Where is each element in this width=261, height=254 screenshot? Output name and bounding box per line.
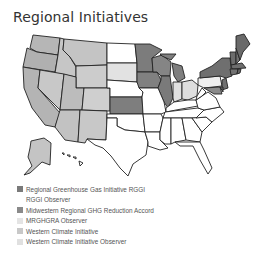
state-arkansas[interactable] [143, 114, 163, 132]
state-hawaii[interactable] [62, 153, 83, 166]
map-title: Regional Initiatives [13, 9, 148, 25]
state-kansas[interactable] [110, 97, 143, 114]
legend-swatch [17, 186, 23, 192]
state-new-mexico[interactable] [78, 110, 107, 143]
map-legend: Regional Greenhouse Gas Initiative RGGI … [17, 184, 154, 247]
legend-item-mrghgra-observer: MRGHGRA Observer [17, 216, 154, 227]
legend-label: Western Climate Initiative [26, 228, 98, 235]
state-north-dakota[interactable] [107, 43, 137, 63]
legend-item-wci: Western Climate Initiative [17, 226, 154, 237]
state-rhode-island[interactable] [237, 69, 241, 74]
legend-swatch [17, 228, 23, 234]
legend-label: Regional Greenhouse Gas Initiative RGGI [26, 186, 145, 193]
state-new-york[interactable] [200, 58, 232, 78]
state-south-dakota[interactable] [107, 63, 137, 82]
legend-label: Midwestern Regional GHG Reduction Accord [26, 207, 154, 214]
legend-swatch [17, 207, 23, 213]
state-alaska[interactable] [24, 138, 51, 175]
state-wyoming[interactable] [76, 65, 107, 88]
legend-item-mwgghg: Midwestern Regional GHG Reduction Accord [17, 205, 154, 216]
us-states-map [0, 30, 261, 180]
state-florida[interactable] [175, 142, 212, 174]
legend-label: MRGHGRA Observer [26, 217, 87, 224]
legend-item-rggi: Regional Greenhouse Gas Initiative RGGI [17, 184, 154, 195]
legend-swatch [17, 197, 23, 203]
state-colorado[interactable] [82, 88, 110, 111]
legend-label: RGGI Observer [26, 196, 70, 203]
state-arizona[interactable] [55, 110, 80, 142]
legend-item-rggi-observer: RGGI Observer [17, 195, 154, 206]
state-iowa[interactable] [137, 72, 161, 88]
legend-swatch [17, 218, 23, 224]
legend-item-wci-observer: Western Climate Initiative Observer [17, 237, 154, 248]
legend-swatch [17, 239, 23, 245]
state-indiana[interactable] [173, 82, 182, 102]
state-ohio[interactable] [182, 80, 198, 100]
legend-label: Western Climate Initiative Observer [26, 238, 126, 245]
state-vermont[interactable] [230, 52, 236, 65]
